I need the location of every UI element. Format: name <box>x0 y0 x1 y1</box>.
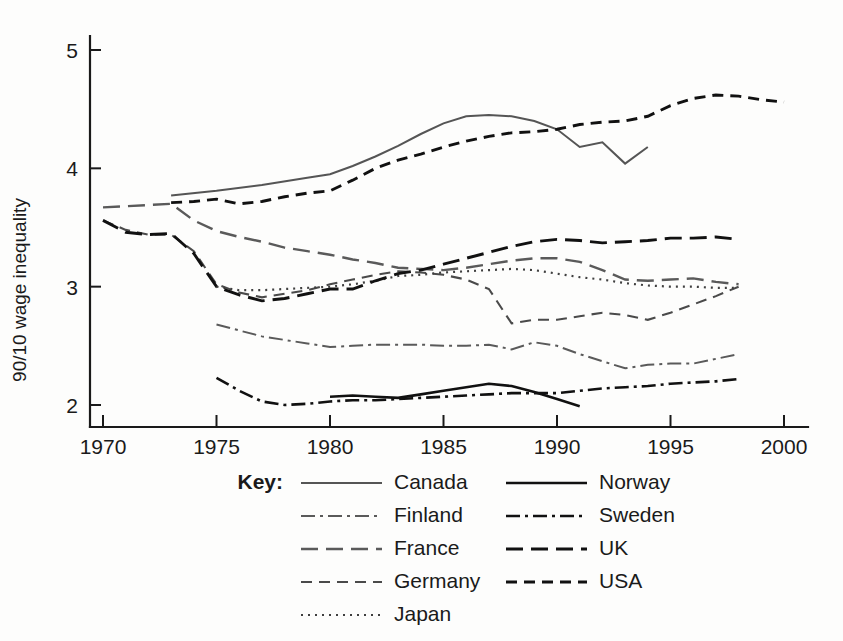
x-tick-label: 1970 <box>80 435 127 458</box>
y-tick-label: 3 <box>66 276 78 299</box>
x-tick-label: 2000 <box>761 435 808 458</box>
y-axis-title: 90/10 wage inequality <box>9 198 30 382</box>
series-line-uk <box>103 220 739 300</box>
chart-tick-labels: 23451970197519801985199019952000 <box>66 39 807 458</box>
chart-axes <box>90 36 808 427</box>
y-tick-label: 5 <box>66 39 78 62</box>
legend-label-usa: USA <box>599 569 642 592</box>
x-tick-label: 1980 <box>307 435 354 458</box>
legend-item-canada[interactable]: Canada <box>301 470 468 493</box>
legend-item-usa[interactable]: USA <box>506 569 642 592</box>
legend-label-sweden: Sweden <box>599 503 675 526</box>
series-line-canada <box>171 115 648 195</box>
series-line-japan <box>217 269 739 290</box>
series-line-sweden <box>217 378 739 405</box>
y-tick-label: 2 <box>66 394 78 417</box>
legend-item-france[interactable]: France <box>301 536 459 559</box>
chart-series <box>103 95 784 406</box>
x-tick-label: 1975 <box>193 435 240 458</box>
legend-key-label: Key: <box>237 470 283 493</box>
legend-item-uk[interactable]: UK <box>506 536 628 559</box>
series-line-germany <box>103 220 739 323</box>
legend-item-finland[interactable]: Finland <box>301 503 463 526</box>
x-tick-label: 1990 <box>534 435 581 458</box>
x-tick-label: 1995 <box>647 435 694 458</box>
legend-label-uk: UK <box>599 536 628 559</box>
chart-figure: 90/10 wage inequality 234519701975198019… <box>0 0 843 641</box>
legend-label-germany: Germany <box>394 569 481 592</box>
legend-item-japan[interactable]: Japan <box>301 602 451 625</box>
line-chart: 90/10 wage inequality 234519701975198019… <box>0 0 843 641</box>
legend-label-canada: Canada <box>394 470 468 493</box>
series-line-finland <box>217 325 739 369</box>
legend-label-japan: Japan <box>394 602 451 625</box>
y-tick-label: 4 <box>66 157 78 180</box>
legend-label-france: France <box>394 536 459 559</box>
legend-item-sweden[interactable]: Sweden <box>506 503 675 526</box>
legend-label-norway: Norway <box>599 470 671 493</box>
series-line-usa <box>171 95 784 204</box>
legend-item-norway[interactable]: Norway <box>506 470 671 493</box>
legend-label-finland: Finland <box>394 503 463 526</box>
y-axis-title-text: 90/10 wage inequality <box>9 198 30 382</box>
x-tick-label: 1985 <box>420 435 467 458</box>
legend-item-germany[interactable]: Germany <box>301 569 481 592</box>
chart-legend: Key:CanadaFinlandFranceGermanyJapanNorwa… <box>237 470 674 625</box>
